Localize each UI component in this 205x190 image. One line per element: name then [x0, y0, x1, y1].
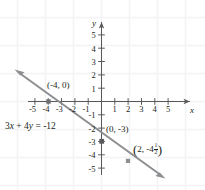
x-tick-label-3: 3 — [139, 105, 143, 114]
x-axis-label: x — [190, 106, 194, 115]
y-tick-label--5: -5 — [89, 165, 96, 174]
point-marker-extra — [126, 159, 130, 163]
y-tick-label--2: -2 — [89, 125, 96, 134]
y-tick-label-5: 5 — [92, 31, 96, 40]
y-axis-label: y — [92, 19, 96, 28]
y-tick-label-4: 4 — [92, 45, 96, 54]
x-tick-label--3: -3 — [56, 105, 63, 114]
y-tick-label--3: -3 — [89, 138, 96, 147]
x-tick-label--2: -2 — [69, 105, 76, 114]
equation-rhs: -12 — [43, 121, 56, 131]
graph-figure: x y -5 -4 -3 -2 -1 1 2 3 4 5 5 4 3 2 1 -… — [0, 0, 205, 190]
x-tick-label--5: -5 — [29, 105, 36, 114]
point-marker-y-intercept — [99, 139, 104, 144]
point-label-y-intercept: (0, -3) — [106, 125, 129, 134]
y-tick-label-1: 1 — [92, 85, 96, 94]
equation-plus: + — [14, 121, 24, 131]
y-tick-label--1: -1 — [89, 111, 96, 120]
plot-area — [0, 0, 205, 190]
y-tick-label-2: 2 — [92, 71, 96, 80]
extra-label-close-paren: ) — [158, 144, 162, 156]
y-tick-label-3: 3 — [92, 58, 96, 67]
extra-label-text: 2, -4 — [137, 144, 154, 154]
x-tick-label--4: -4 — [42, 105, 49, 114]
x-tick-label-5: 5 — [166, 105, 170, 114]
extra-label-prefix-text: 2, -4 — [137, 144, 154, 154]
x-tick-label-2: 2 — [126, 105, 130, 114]
x-tick-label-4: 4 — [153, 105, 157, 114]
equation-annotation: 3x + 4y = -12 — [5, 122, 56, 132]
point-label-x-intercept: (-4, 0) — [47, 81, 70, 90]
y-tick-label--4: -4 — [89, 151, 96, 160]
point-label-extra: (2, -412) — [133, 143, 162, 156]
equation-equals: = — [33, 121, 43, 131]
x-tick-label-1: 1 — [113, 105, 117, 114]
